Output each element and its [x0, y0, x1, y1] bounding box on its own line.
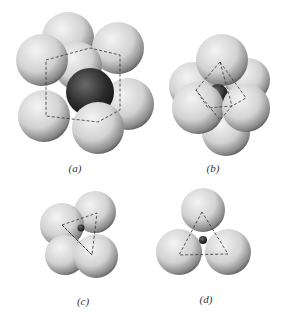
panel-b-octahedral-coordination	[169, 34, 270, 156]
central-ion-c	[78, 225, 85, 232]
panel-label-a: (a)	[69, 162, 82, 174]
panel-label-c: (c)	[77, 295, 89, 307]
panel-label-d: (d)	[200, 293, 213, 305]
figure-canvas	[0, 0, 293, 320]
panel-a-cubic-coordination	[16, 12, 154, 154]
central-ion-d	[199, 236, 207, 244]
panel-d-triangular-coordination	[156, 188, 251, 275]
panel-label-b: (b)	[207, 162, 220, 174]
panel-c-tetrahedral-coordination	[40, 191, 118, 278]
